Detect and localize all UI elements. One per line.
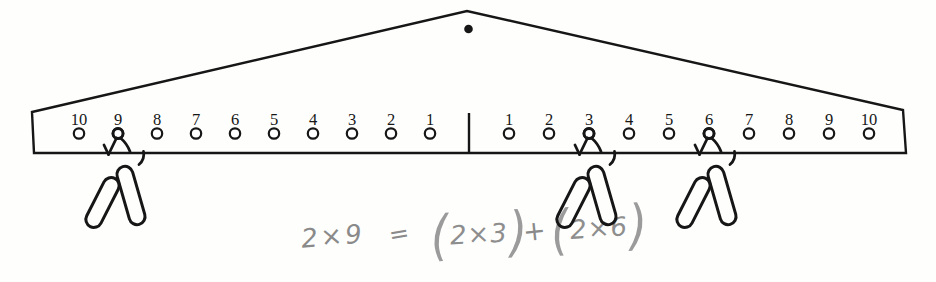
peg-hole-left-10 xyxy=(74,128,84,138)
peg-number: 2 xyxy=(387,110,395,129)
peg-hole-right-4 xyxy=(624,128,634,138)
peg-number: 4 xyxy=(625,110,633,129)
peg-hole-right-1 xyxy=(504,128,514,138)
peg-number: 2 xyxy=(545,110,553,129)
peg-hole-right-9 xyxy=(824,128,834,138)
peg-hole-left-4 xyxy=(308,128,318,138)
peg-number: 6 xyxy=(705,110,713,129)
peg-left-4: 4 xyxy=(308,110,318,139)
peg-number: 5 xyxy=(270,110,278,129)
peg-right-4: 4 xyxy=(624,110,634,139)
peg-left-5: 5 xyxy=(269,110,279,139)
peg-right-10: 10 xyxy=(861,110,878,139)
peg-number: 8 xyxy=(785,110,793,129)
peg-number: 10 xyxy=(71,110,88,129)
peg-left-6: 6 xyxy=(230,110,240,139)
peg-number: 5 xyxy=(665,110,673,129)
peg-hole-right-8 xyxy=(784,128,794,138)
peg-left-8: 8 xyxy=(152,110,162,139)
peg-hole-left-1 xyxy=(425,128,435,138)
peg-hole-right-2 xyxy=(544,128,554,138)
peg-number: 8 xyxy=(153,110,161,129)
peg-hole-left-5 xyxy=(269,128,279,138)
peg-right-9: 9 xyxy=(824,110,834,139)
peg-right-7: 7 xyxy=(744,110,754,139)
peg-number: 7 xyxy=(192,110,200,129)
peg-number: 6 xyxy=(231,110,239,129)
peg-number: 1 xyxy=(505,110,513,129)
peg-hole-left-7 xyxy=(191,128,201,138)
peg-right-1: 1 xyxy=(504,110,514,139)
peg-left-7: 7 xyxy=(191,110,201,139)
peg-left-10: 10 xyxy=(71,110,88,139)
peg-hole-left-6 xyxy=(230,128,240,138)
peg-number: 7 xyxy=(745,110,753,129)
peg-number: 9 xyxy=(114,110,122,129)
peg-hole-right-7 xyxy=(744,128,754,138)
balance-beam-drawing: 1098765432112345678910 xyxy=(0,0,936,282)
peg-number: 3 xyxy=(585,110,593,129)
peg-hole-left-8 xyxy=(152,128,162,138)
peg-left-3: 3 xyxy=(347,110,357,139)
peg-hole-left-3 xyxy=(347,128,357,138)
peg-right-5: 5 xyxy=(664,110,674,139)
peg-hole-left-2 xyxy=(386,128,396,138)
peg-left-2: 2 xyxy=(386,110,396,139)
peg-hole-right-5 xyxy=(664,128,674,138)
peg-number: 4 xyxy=(309,110,317,129)
pivot-dot xyxy=(464,25,473,34)
peg-number: 9 xyxy=(825,110,833,129)
peg-number: 1 xyxy=(426,110,434,129)
peg-right-2: 2 xyxy=(544,110,554,139)
peg-hole-right-10 xyxy=(864,128,874,138)
peg-number: 10 xyxy=(861,110,878,129)
balance-diagram-page: 2×9 = (2×3) + (2×6) xyxy=(0,0,936,282)
peg-left-1: 1 xyxy=(425,110,435,139)
peg-number: 3 xyxy=(348,110,356,129)
peg-right-8: 8 xyxy=(784,110,794,139)
